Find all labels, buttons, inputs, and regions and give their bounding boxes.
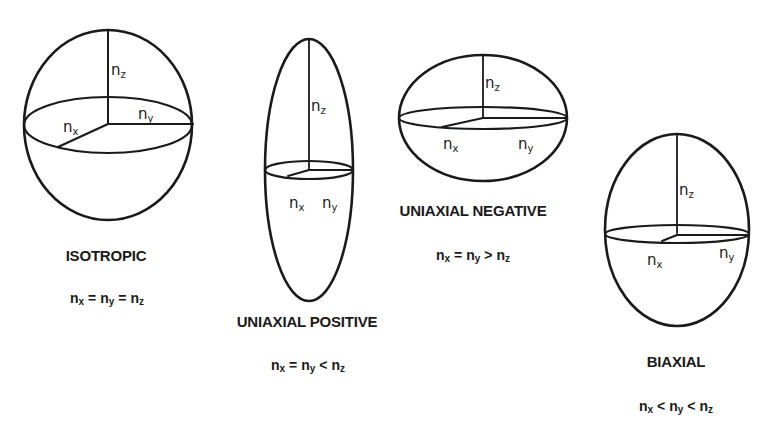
isotropic-nz-label: nz <box>111 61 126 80</box>
isotropic-ny-label: ny <box>138 105 154 124</box>
uniaxial-positive-ellipsoid <box>265 39 353 301</box>
uniaxial-positive-title: UNIAXIAL POSITIVE <box>237 313 378 330</box>
biaxial-ellipsoid <box>605 134 749 326</box>
biaxial-nx-label: nx <box>647 251 663 270</box>
uniaxial-positive-ny-label: ny <box>322 194 338 213</box>
biaxial-ny-label: ny <box>719 244 735 263</box>
uniaxial-positive-nz-label: nz <box>311 97 326 116</box>
isotropic-sphere <box>24 30 193 220</box>
uniaxial-negative-nz-label: nz <box>485 74 500 93</box>
biaxial-formula: nx<ny<nz <box>639 398 713 415</box>
uniaxial-positive-nx-axis <box>288 170 309 176</box>
uniaxial-negative-ny-label: ny <box>518 135 534 154</box>
uniaxial-positive-nx-label: nx <box>289 194 305 213</box>
isotropic-formula: nx=ny=nz <box>70 290 144 307</box>
uniaxial-negative-nx-label: nx <box>443 135 459 154</box>
uniaxial-negative-nx-axis <box>442 118 483 127</box>
uniaxial-negative-ellipsoid <box>399 55 567 181</box>
axis-labels: nz ny nx nz nx ny nz nx ny nz nx ny <box>63 61 735 270</box>
biaxial-nx-axis <box>662 235 677 241</box>
isotropic-title: ISOTROPIC <box>66 247 147 264</box>
uniaxial-positive-formula: nx=ny<nz <box>271 357 345 374</box>
biaxial-nz-label: nz <box>679 181 694 200</box>
uniaxial-negative-formula: nx=ny>nz <box>436 247 510 264</box>
isotropic-nx-label: nx <box>63 118 79 137</box>
biaxial-title: BIAXIAL <box>647 353 706 370</box>
uniaxial-negative-title: UNIAXIAL NEGATIVE <box>400 202 547 219</box>
